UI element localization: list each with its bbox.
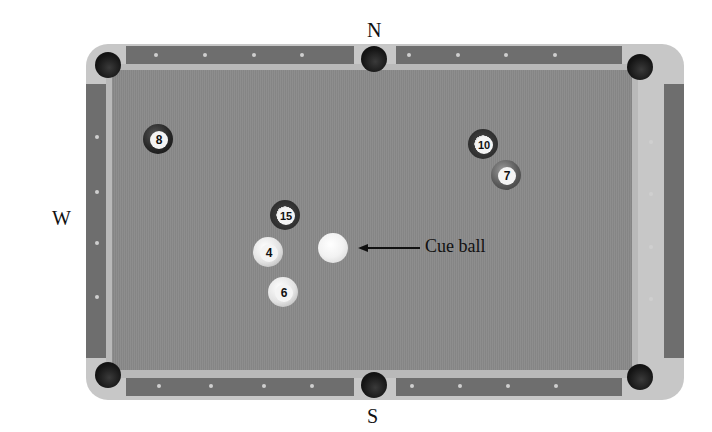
diamond-marker-icon bbox=[95, 190, 99, 194]
ball-6: 6 bbox=[268, 277, 298, 307]
diamond-marker-icon bbox=[553, 53, 557, 57]
ball-number: 15 bbox=[277, 207, 295, 225]
diamond-marker-icon bbox=[649, 192, 653, 196]
diamond-marker-icon bbox=[203, 53, 207, 57]
cue-ball bbox=[318, 233, 348, 263]
ball-number: 6 bbox=[275, 284, 293, 302]
diamond-marker-icon bbox=[310, 384, 314, 388]
ball-4: 4 bbox=[253, 237, 283, 267]
pocket-top-right-icon bbox=[627, 54, 653, 80]
pocket-bottom-middle-icon bbox=[361, 372, 387, 398]
diamond-marker-icon bbox=[649, 297, 653, 301]
rail-left bbox=[86, 84, 106, 358]
diamond-marker-icon bbox=[154, 53, 158, 57]
annotation-arrow-line bbox=[366, 247, 420, 249]
ball-number: 7 bbox=[498, 167, 516, 185]
compass-north-label: N bbox=[367, 20, 381, 40]
diamond-marker-icon bbox=[554, 384, 558, 388]
pocket-bottom-right-icon bbox=[627, 364, 653, 390]
diamond-marker-icon bbox=[506, 384, 510, 388]
compass-south-label: S bbox=[367, 406, 378, 426]
diamond-marker-icon bbox=[458, 384, 462, 388]
table-felt bbox=[112, 70, 632, 370]
diamond-marker-icon bbox=[95, 295, 99, 299]
diamond-marker-icon bbox=[504, 53, 508, 57]
ball-number: 4 bbox=[260, 244, 278, 262]
rail-right bbox=[664, 84, 684, 358]
ball-number: 10 bbox=[475, 136, 493, 154]
diamond-marker-icon bbox=[252, 53, 256, 57]
rail-top-right bbox=[396, 46, 622, 64]
diamond-marker-icon bbox=[407, 53, 411, 57]
cushion-right bbox=[632, 70, 638, 370]
diamond-marker-icon bbox=[262, 384, 266, 388]
diamond-marker-icon bbox=[649, 140, 653, 144]
ball-8: 8 bbox=[143, 124, 173, 154]
compass-west-label: W bbox=[52, 208, 71, 228]
diamond-marker-icon bbox=[300, 53, 304, 57]
pocket-top-left-icon bbox=[95, 52, 121, 78]
diamond-marker-icon bbox=[649, 245, 653, 249]
pocket-bottom-left-icon bbox=[95, 362, 121, 388]
ball-10: 10 bbox=[468, 129, 498, 159]
diamond-marker-icon bbox=[209, 384, 213, 388]
diamond-marker-icon bbox=[410, 384, 414, 388]
rail-top-left bbox=[126, 46, 354, 64]
diamond-marker-icon bbox=[95, 241, 99, 245]
ball-15: 15 bbox=[270, 200, 300, 230]
diamond-marker-icon bbox=[456, 53, 460, 57]
diamond-marker-icon bbox=[95, 135, 99, 139]
diamond-marker-icon bbox=[157, 384, 161, 388]
cue-ball-label: Cue ball bbox=[425, 236, 486, 257]
ball-number: 8 bbox=[150, 131, 168, 149]
pocket-top-middle-icon bbox=[361, 46, 387, 72]
ball-7: 7 bbox=[491, 160, 521, 190]
